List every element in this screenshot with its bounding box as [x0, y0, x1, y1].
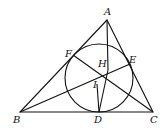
segment-be: [20, 64, 130, 112]
segment-ad: [107, 20, 108, 70]
label-f: F: [64, 48, 73, 59]
label-b: B: [12, 114, 20, 125]
label-e: E: [128, 54, 137, 65]
label-h: H: [97, 58, 107, 69]
label-c: C: [150, 114, 158, 125]
segment-id: [97, 84, 99, 112]
label-d: D: [93, 114, 102, 125]
geometry-diagram: A B C D E F H I: [0, 0, 165, 140]
label-a: A: [103, 6, 111, 17]
